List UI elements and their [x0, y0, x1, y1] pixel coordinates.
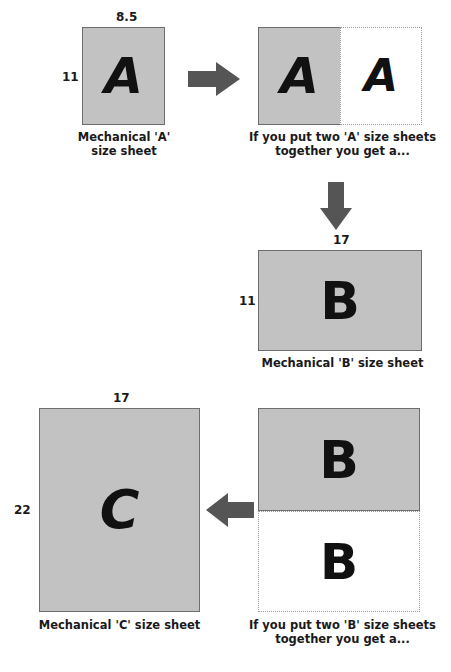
a-pair-ghost-sheet: A [340, 27, 422, 125]
b-pair-caption: If you put two 'B' size sheets together … [240, 618, 445, 647]
arrow-down-icon [320, 182, 352, 230]
a-sheet-glyph: A [104, 51, 143, 101]
a-pair-solid-sheet: A [258, 27, 341, 125]
a-pair-solid-glyph: A [280, 51, 319, 101]
a-size-sheet: A [82, 27, 165, 125]
clipped-header-text [0, 0, 451, 7]
b-sheet-glyph: B [320, 275, 360, 327]
c-size-sheet: C [39, 408, 200, 612]
b-pair-ghost-glyph: B [320, 537, 358, 587]
b-sheet-height-label: 11 [239, 294, 256, 308]
b-size-sheet: B [258, 250, 422, 351]
arrow-left-icon [206, 493, 254, 527]
a-sheet-width-label: 8.5 [116, 10, 137, 24]
mechanical-sheet-sizes-diagram: 8.5 11 A Mechanical 'A' size sheet A A I… [0, 0, 451, 672]
b-pair-ghost-sheet: B [258, 511, 420, 612]
arrow-right-icon [188, 62, 241, 96]
b-pair-solid-sheet: B [258, 408, 420, 511]
a-sheet-height-label: 11 [62, 70, 79, 84]
c-sheet-glyph: C [100, 483, 140, 537]
c-sheet-width-label: 17 [113, 391, 130, 405]
b-pair-solid-glyph: B [319, 434, 359, 486]
b-sheet-width-label: 17 [333, 233, 350, 247]
c-sheet-height-label: 22 [14, 503, 31, 517]
a-pair-caption: If you put two 'A' size sheets together … [240, 130, 445, 159]
a-pair-ghost-glyph: A [364, 54, 398, 98]
a-sheet-caption: Mechanical 'A' size sheet [58, 130, 190, 159]
b-sheet-caption: Mechanical 'B' size sheet [240, 356, 445, 370]
c-sheet-caption: Mechanical 'C' size sheet [22, 618, 217, 632]
